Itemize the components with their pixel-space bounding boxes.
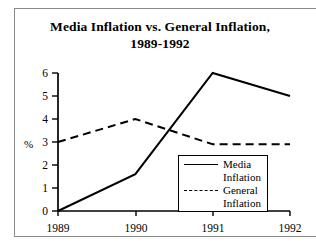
- y-tick-label-0: 0: [30, 205, 48, 217]
- y-tick-label-2: 2: [30, 159, 48, 171]
- legend-label-media-inflation-line-1: Media: [223, 158, 251, 170]
- legend-label-media-inflation-line-2: Inflation: [223, 171, 261, 184]
- chart-figure: Media Inflation vs. General Inflation, 1…: [0, 0, 316, 252]
- legend-label-general-inflation-line-1: General: [223, 184, 258, 196]
- x-tick-label-1991: 1991: [191, 222, 235, 234]
- legend-label-media-inflation: Media Inflation: [223, 158, 261, 184]
- legend-label-general-inflation-line-2: Inflation: [223, 197, 261, 210]
- x-tick-label-1989: 1989: [36, 222, 80, 234]
- legend-item-media-inflation: Media Inflation: [179, 158, 267, 186]
- legend-label-general-inflation: General Inflation: [223, 184, 261, 210]
- legend-swatch-solid-line: [184, 164, 218, 165]
- y-tick-label-4: 4: [30, 113, 48, 125]
- chart-legend: Media Inflation General Inflation: [178, 155, 268, 212]
- y-tick-label-6: 6: [30, 67, 48, 79]
- y-axis-ticks: [52, 73, 58, 211]
- legend-item-general-inflation: General Inflation: [179, 184, 267, 212]
- y-tick-label-3: 3: [30, 136, 48, 148]
- x-tick-label-1990: 1990: [114, 222, 158, 234]
- y-tick-label-1: 1: [30, 182, 48, 194]
- legend-swatch-dashed-line: [184, 190, 218, 191]
- x-tick-label-1992: 1992: [268, 222, 312, 234]
- y-tick-label-5: 5: [30, 90, 48, 102]
